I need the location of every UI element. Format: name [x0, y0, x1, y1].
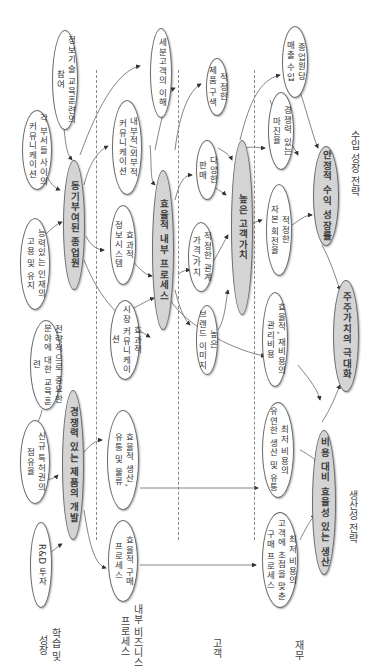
strategy-map: 정보기술 교육훈련의 참여 각 부서들 사이의 커뮤니케이션 능력있는 인재의 …: [0, 0, 378, 672]
node-internal-external-comm: 내부적/외부적 커뮤니케이션: [112, 100, 142, 195]
node-proper-mix: 적정한 제품 구색: [206, 58, 228, 116]
lane-divider: [254, 70, 255, 540]
node-competitive-product: 경쟁력 있는 제품의 개발: [62, 390, 84, 540]
node-retain-talent: 능력있는 인재의 고용 및 유지: [20, 218, 50, 310]
node-revenue-per-employee: 종업원당 매출 수입: [282, 26, 308, 98]
node-new-patent: 신규 특허권의 점유율: [20, 420, 50, 504]
node-shareholder-value: 주주가치의 극대화: [333, 280, 359, 392]
node-efficient-production: 효율적 생산, 유통 및 물류: [107, 410, 139, 510]
node-rnd-investment: R&D 투자: [30, 522, 52, 608]
lane-divider: [178, 70, 179, 540]
node-motivated-staff: 동기부여된 종업원: [63, 160, 85, 290]
node-competitive-margin: 경쟁력 있는 마진율: [268, 92, 294, 170]
node-diverse-sales: 다양한 판매: [196, 140, 218, 200]
node-efficient-purchase: 효율적 구매 프로세스: [108, 520, 138, 602]
node-effective-is: 효과적 정보시스템: [110, 205, 136, 285]
node-market-communication: 효과적 시장 커뮤니케이션: [110, 300, 140, 380]
edge: [64, 128, 72, 160]
node-high-customer-value: 높은 고객가치: [231, 140, 253, 315]
lane-divider: [96, 70, 97, 540]
perspective-label-internal: 내부 비즈니스 프로세스: [118, 604, 144, 667]
node-brand-image: 높은 브랜드 이미지: [196, 305, 218, 375]
node-stable-profit: 안정적 수익 성장률: [313, 146, 339, 246]
node-segment-understanding: 세분고객의 이해: [150, 28, 172, 118]
node-efficient-internal: 효율적 내부 프로세스: [152, 170, 174, 330]
node-capital-turnover: 적정한 자본 회전율: [266, 184, 292, 276]
perspective-label-financial: 재무: [292, 640, 305, 660]
strategy-label-productivity: 생산성 전략: [346, 490, 359, 543]
node-dept-communication: 각 부서들 사이의 커뮤니케이션: [22, 110, 52, 190]
strategy-label-revenue: 수입 성장 전략: [348, 130, 361, 196]
node-strategic-training: 전략적으로 중요한 분야에 대한 교육훈련: [30, 320, 62, 410]
perspective-label-customer: 고객: [210, 638, 223, 658]
node-low-cost-purchase: 최저 비용의 고객에 초점을 맞춘 구매 프로세스: [262, 512, 298, 608]
node-admin-cost: 효율적, 재비용의 관리비용: [262, 292, 288, 387]
node-cost-effective-production: 비용 대비 효율성 있는 생산: [312, 430, 336, 575]
node-low-cost-production: 최저 비용의 유연한 생산 및 유통: [262, 402, 294, 498]
node-price-value: 적정한 관계 가격/가치: [188, 222, 214, 292]
node-it-training: 정보기술 교육훈련의 참여: [52, 30, 78, 130]
perspective-label-learning: 학습 및 성장: [36, 628, 62, 661]
